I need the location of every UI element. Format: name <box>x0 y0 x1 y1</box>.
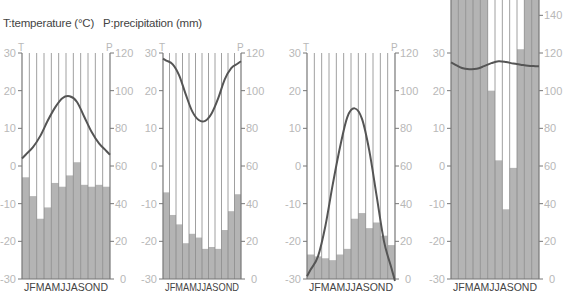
left-axis-tick-label: 20 <box>4 85 16 97</box>
precip-bar-D <box>532 0 539 279</box>
right-axis-tick-label: 60 <box>115 160 127 172</box>
right-axis-tick-label: 0 <box>120 273 126 285</box>
left-axis-tick-label: 10 <box>289 122 301 134</box>
left-axis-tick-label: 0 <box>295 160 301 172</box>
left-axis-title: T <box>18 42 24 53</box>
precip-bar-A <box>502 209 509 279</box>
month-labels: JFMAMJJASOND <box>453 281 537 293</box>
left-axis-tick-label: 20 <box>145 85 157 97</box>
precip-bar-D <box>103 187 110 279</box>
left-axis-tick-label: 20 <box>433 85 445 97</box>
precip-bar-A <box>473 0 480 279</box>
right-axis-tick-label: 60 <box>400 160 412 172</box>
left-axis-tick-label: -30 <box>429 273 445 285</box>
climate-chart-4: 3020100-10-20-30140120100806040200JFMAMJ… <box>429 0 562 293</box>
left-axis-tick-label: 30 <box>289 47 301 59</box>
left-axis-title: T <box>159 42 165 53</box>
right-axis-tick-label: 60 <box>544 160 556 172</box>
right-axis-tick-label: 100 <box>115 85 133 97</box>
right-axis-tick-label: 120 <box>400 47 418 59</box>
precip-bar-N <box>95 185 102 279</box>
right-axis-title: P <box>391 42 398 53</box>
right-axis-tick-label: 80 <box>400 122 412 134</box>
right-axis-tick-label: 80 <box>544 122 556 134</box>
month-labels: JFMAMJJASOND <box>165 281 239 293</box>
right-axis-tick-label: 140 <box>544 9 562 21</box>
precip-bar-S <box>215 249 222 279</box>
precip-bar-A <box>73 162 80 279</box>
right-axis-title: P <box>237 42 244 53</box>
precip-bar-J <box>202 249 209 279</box>
right-axis-tick-label: 120 <box>544 47 562 59</box>
left-axis-tick-label: -10 <box>285 198 301 210</box>
precip-bar-J <box>59 187 66 279</box>
right-axis-tick-label: 40 <box>544 198 556 210</box>
precip-bar-J <box>66 175 73 279</box>
left-axis-tick-label: 20 <box>289 85 301 97</box>
precip-bar-F <box>314 256 321 279</box>
precip-bar-M <box>466 0 473 279</box>
left-axis-tick-label: -30 <box>141 273 157 285</box>
precip-bar-M <box>480 0 487 279</box>
right-axis-tick-label: 80 <box>246 122 258 134</box>
left-axis-tick-label: 10 <box>145 122 157 134</box>
right-axis-tick-label: 60 <box>246 160 258 172</box>
precip-bar-J <box>196 238 203 279</box>
left-axis-tick-label: -20 <box>285 235 301 247</box>
precip-bar-A <box>329 260 336 279</box>
climate-chart-2: 3020100-10-20-30T120100806040200PJFMAMJJ… <box>141 42 264 293</box>
precip-bar-M <box>322 258 329 279</box>
right-axis-tick-label: 0 <box>549 273 555 285</box>
left-axis-tick-label: 30 <box>433 47 445 59</box>
month-labels: JFMAMJJASOND <box>309 281 393 293</box>
precip-bar-O <box>222 230 229 279</box>
right-axis-title: P <box>106 42 113 53</box>
right-axis-tick-label: 40 <box>115 198 127 210</box>
right-axis-tick-label: 20 <box>544 235 556 247</box>
left-axis-title: T <box>303 42 309 53</box>
right-axis-tick-label: 100 <box>246 85 264 97</box>
climate-chart-3: 3020100-10-20-30T120100806040200PJFMAMJJ… <box>285 42 418 293</box>
left-axis-tick-label: 30 <box>4 47 16 59</box>
climate-chart-1: 3020100-10-20-30T120100806040200PJFMAMJJ… <box>0 42 133 293</box>
left-axis-tick-label: -20 <box>0 235 16 247</box>
left-axis-tick-label: 0 <box>439 160 445 172</box>
right-axis-tick-label: 0 <box>251 273 257 285</box>
left-axis-tick-label: -10 <box>0 198 16 210</box>
left-axis-tick-label: -10 <box>429 198 445 210</box>
right-axis-tick-label: 40 <box>400 198 412 210</box>
left-axis-tick-label: -10 <box>141 198 157 210</box>
precip-bar-S <box>510 168 517 279</box>
precip-bar-M <box>336 255 343 279</box>
precip-bar-M <box>189 234 196 279</box>
right-axis-tick-label: 100 <box>544 85 562 97</box>
precip-bar-O <box>517 49 524 279</box>
precip-bar-N <box>228 211 235 279</box>
precip-bar-M <box>51 183 58 279</box>
right-axis-tick-label: 0 <box>405 273 411 285</box>
precip-bar-J <box>488 91 495 279</box>
precip-bar-O <box>373 223 380 280</box>
precip-bar-A <box>183 243 190 279</box>
precip-bar-F <box>458 0 465 279</box>
precip-bar-F <box>170 215 177 279</box>
precip-bar-N <box>524 0 531 279</box>
precip-bar-S <box>81 185 88 279</box>
precip-bar-A <box>44 207 51 279</box>
precip-bar-M <box>176 224 183 279</box>
month-labels: JFMAMJJASOND <box>24 281 108 293</box>
precip-bar-F <box>29 196 36 279</box>
left-axis-tick-label: 30 <box>145 47 157 59</box>
right-axis-tick-label: 120 <box>115 47 133 59</box>
climate-charts: 3020100-10-20-30T120100806040200PJFMAMJJ… <box>0 0 568 302</box>
precip-bar-A <box>209 247 216 279</box>
precip-bar-J <box>163 192 170 279</box>
precip-bar-J <box>22 177 29 279</box>
right-axis-tick-label: 80 <box>115 122 127 134</box>
right-axis-tick-label: 20 <box>246 235 258 247</box>
precip-bar-M <box>37 219 44 279</box>
precip-bar-J <box>344 249 351 279</box>
left-axis-tick-label: -30 <box>285 273 301 285</box>
precip-bar-A <box>358 213 365 279</box>
right-axis-tick-label: 20 <box>115 235 127 247</box>
